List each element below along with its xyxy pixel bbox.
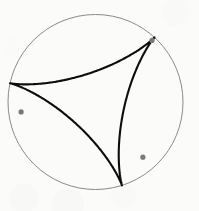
figure-canvas — [0, 0, 199, 211]
figure-background — [0, 0, 199, 211]
cusp-bottom — [140, 155, 145, 160]
cusp-top-right — [149, 38, 154, 43]
deltoid-figure — [0, 0, 199, 211]
cusp-left — [19, 109, 24, 114]
